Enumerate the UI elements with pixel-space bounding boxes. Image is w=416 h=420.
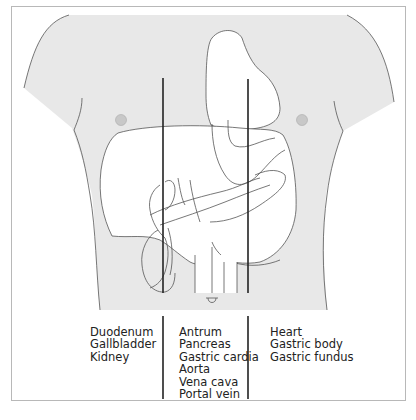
label-gallbladder: Gallbladder [90, 338, 156, 350]
label-pancreas: Pancreas [179, 338, 259, 350]
middle-column-labels: Antrum Pancreas Gastric cardia Aorta Ven… [179, 326, 259, 400]
right-column-labels: Heart Gastric body Gastric fundus [270, 326, 354, 363]
vessels-area [195, 255, 237, 293]
label-gastric-body: Gastric body [270, 338, 354, 350]
label-aorta: Aorta [179, 363, 259, 375]
nipple-right [297, 115, 308, 126]
label-gastric-fundus: Gastric fundus [270, 351, 354, 363]
nipple-left [116, 115, 127, 126]
left-column-labels: Duodenum Gallbladder Kidney [90, 326, 156, 363]
label-portal-vein: Portal vein [179, 388, 259, 400]
label-kidney: Kidney [90, 351, 156, 363]
